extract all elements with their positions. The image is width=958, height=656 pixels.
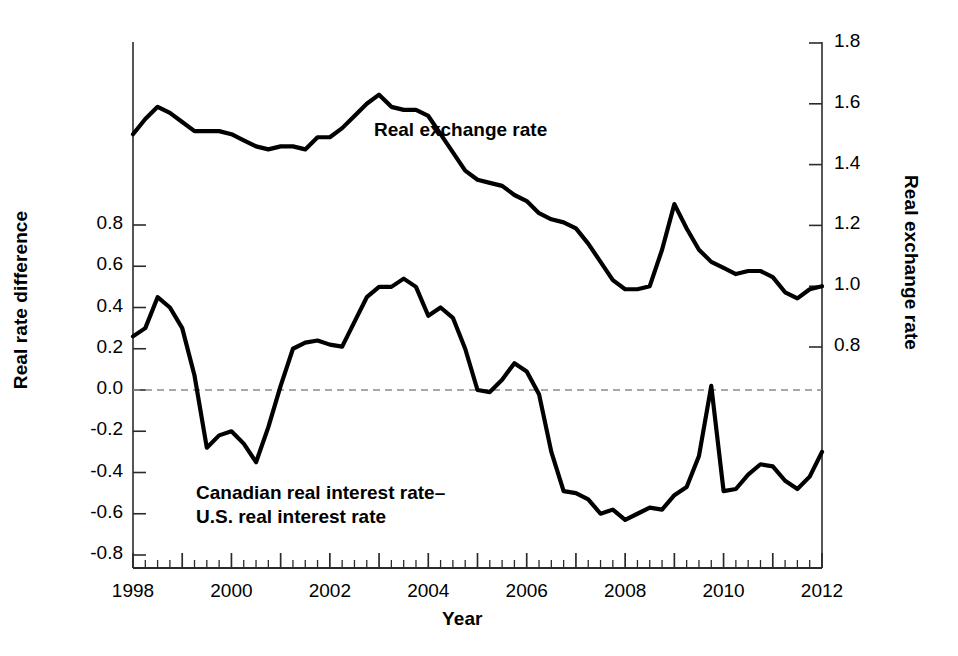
x-axis-label: Year (442, 608, 483, 630)
y-tick-right-1.6: 1.6 (834, 91, 860, 113)
y-tick-right-1.2: 1.2 (834, 212, 860, 234)
y-tick-left-0.0: 0.0 (97, 377, 123, 399)
x-tick-2002: 2002 (309, 580, 351, 602)
rate-difference-label-line2: U.S. real interest rate (196, 505, 445, 529)
y-tick-left--0.8: -0.8 (90, 542, 123, 564)
y-tick-right-1.0: 1.0 (834, 273, 860, 295)
chart-figure: 0.80.60.40.20.0-0.2-0.4-0.6-0.81.81.61.4… (0, 0, 958, 656)
y-axis-label-right: Real exchange rate (900, 175, 922, 350)
data-series-group (133, 95, 822, 520)
x-tick-2000: 2000 (210, 580, 252, 602)
y-tick-left--0.2: -0.2 (90, 418, 123, 440)
y-tick-left--0.6: -0.6 (90, 501, 123, 523)
y-tick-left-0.4: 0.4 (97, 295, 123, 317)
y-tick-right-0.8: 0.8 (834, 334, 860, 356)
rate-difference-label-line1: Canadian real interest rate– (196, 481, 445, 505)
real-exchange-rate-label: Real exchange rate (374, 118, 547, 142)
x-tick-2004: 2004 (407, 580, 449, 602)
x-tick-2012: 2012 (801, 580, 843, 602)
y-tick-right-1.4: 1.4 (834, 152, 860, 174)
y-tick-left-0.2: 0.2 (97, 336, 123, 358)
x-tick-2010: 2010 (702, 580, 744, 602)
rate-difference-label: Canadian real interest rate– U.S. real i… (196, 481, 445, 529)
x-tick-2008: 2008 (604, 580, 646, 602)
chart-plot-area (0, 0, 958, 656)
y-tick-left-0.6: 0.6 (97, 253, 123, 275)
y-axis-label-left: Real rate difference (10, 211, 32, 389)
x-tick-1998: 1998 (112, 580, 154, 602)
y-tick-left--0.4: -0.4 (90, 460, 123, 482)
x-tick-2006: 2006 (506, 580, 548, 602)
y-tick-left-0.8: 0.8 (97, 212, 123, 234)
y-tick-right-1.8: 1.8 (834, 30, 860, 52)
